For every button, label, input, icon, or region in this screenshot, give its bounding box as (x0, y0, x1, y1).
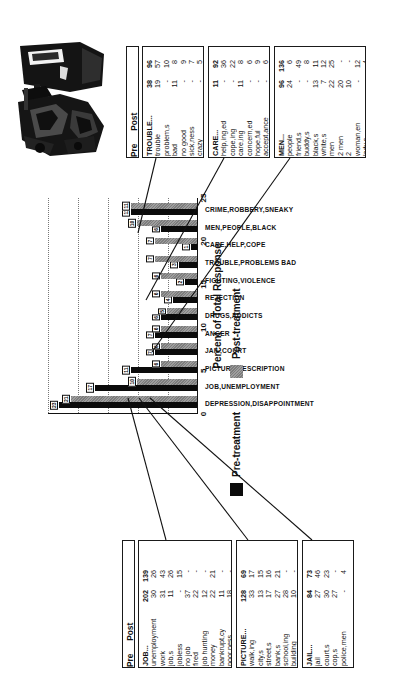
legend-label-post: Post-treatment (231, 288, 242, 359)
table-row: police,men-4 (340, 570, 348, 666)
cell-pre: 19 (154, 80, 162, 100)
row-label: trouble (154, 100, 162, 156)
table-row: unemployment3026 (150, 570, 158, 666)
bar-pre: 11 (131, 209, 197, 215)
row-label: fired (192, 610, 200, 666)
bar-pre: 6 (161, 314, 197, 320)
bar-group: 116 (48, 361, 197, 373)
bar-post: 7 (155, 238, 197, 244)
figure-page: Pre Post TROUBLE... 38 96 trouble1957 pr… (0, 0, 412, 680)
cell-pre: - (340, 590, 348, 610)
table-row: woman,en-12 (354, 60, 362, 156)
bar-post: 6 (161, 326, 197, 332)
table-row: buddy,s-8 (303, 60, 311, 156)
bar-value-label: 10 (128, 377, 136, 387)
bar-pre: 11 (131, 367, 197, 373)
table-row: JOB... 202 139 (142, 570, 150, 666)
row-label: walk,ing (248, 610, 256, 666)
table-row: jobless-15 (176, 570, 184, 666)
cell-post: - (337, 60, 345, 80)
bar-group: 46 (48, 291, 197, 303)
row-label: cop,s (331, 610, 339, 666)
table-trouble: TROUBLE... 38 96 trouble1957 problem,s-1… (142, 46, 204, 158)
cell-pre: 11 (171, 80, 179, 100)
legend-item-pre: Pre-treatment (230, 412, 243, 496)
cell-pre: 24 (286, 80, 294, 100)
header-post: Post (129, 113, 139, 131)
category-label: PICTURE DESCRIPTION (202, 361, 342, 375)
table-row: TROUBLE... 38 96 (146, 60, 154, 156)
table-row: JAIL... 84 73 (306, 570, 314, 666)
category-label: MEN,PEOPLE,BLACK (202, 220, 342, 234)
table-row: CARE... 11 92 (212, 60, 220, 156)
table-row: building10- (290, 570, 298, 666)
cell-pre: - (362, 80, 366, 100)
cell-post: 21 (274, 570, 282, 590)
row-label: jobless (176, 610, 184, 666)
row-label: woman,en (354, 100, 362, 156)
cell-post: 23 (323, 570, 331, 590)
row-label: job hunting (201, 610, 209, 666)
table-row: cope,ing-22 (229, 60, 237, 156)
table-row: bankrupt,cy11- (218, 570, 226, 666)
cell-pre: - (354, 80, 362, 100)
table-row: trouble1957 (154, 60, 162, 156)
bar-post: 11 (131, 203, 197, 209)
header-post: Post (125, 623, 135, 641)
row-label: bad (171, 100, 179, 156)
row-label: people (286, 100, 294, 156)
row-label: buddy,s (303, 100, 311, 156)
cell-pre: - (188, 80, 196, 100)
legend-item-post: Post-treatment (230, 288, 243, 378)
table-row: poor,ness18- (226, 570, 232, 666)
bar-value-label: 17 (86, 383, 94, 393)
table-job: JOB... 202 139 unemployment3026 work3143… (138, 540, 232, 668)
category-axis: DEPRESSION,DISAPPOINTMENTJOB,UNEMPLOYMEN… (202, 198, 342, 414)
table-jail: JAIL... 84 73 jail2746 court,s3023 cop,s… (302, 540, 354, 668)
bar-chart: 23211710116767665462637176101111 0510152… (44, 178, 276, 500)
bar-post: 21 (71, 396, 197, 402)
bar-group: 17 (48, 238, 197, 250)
cell-pre: - (262, 80, 270, 100)
header-pre: Pre (125, 653, 135, 667)
bar-pre: 1 (191, 244, 197, 250)
row-label: no job (184, 610, 192, 666)
row-label: concern,ed (246, 100, 254, 156)
row-label: lady,s (362, 100, 366, 156)
table-title: CARE... (212, 100, 220, 156)
row-label: building (290, 610, 298, 666)
cell-post: - (282, 570, 290, 590)
table-care: CARE... 11 92 help,ing,ed-36 cope,ing-22… (208, 46, 270, 158)
bar-value-label: 3 (170, 261, 178, 268)
cell-post: 25 (328, 60, 336, 80)
row-label: city,s (257, 610, 265, 666)
bar-value-label: 6 (152, 290, 160, 297)
cell-post: 5 (196, 60, 204, 80)
bar-value-label: 11 (122, 365, 130, 374)
category-label: DRUGS,ADDICTS (202, 308, 342, 322)
table-row: sick,ness-7 (188, 60, 196, 156)
row-label: care,ing (237, 100, 245, 156)
row-label: sick,ness (188, 100, 196, 156)
category-label: JAIL,COURT (202, 343, 342, 357)
bar-value-label: 2 (176, 279, 184, 286)
bar-value-label: 4 (164, 296, 172, 303)
cell-post: - (192, 570, 200, 590)
bar-post: 6 (161, 361, 197, 367)
tv-monitor-photograph (16, 40, 114, 158)
table-title: JOB... (142, 610, 150, 666)
table-title: MEN... (278, 100, 286, 156)
row-label: jail (314, 610, 322, 666)
table-row: help,ing,ed-36 (220, 60, 228, 156)
table-row: MEN... 96 136 (278, 60, 286, 156)
bar-value-label: 21 (62, 394, 70, 404)
bar-value-label: 1 (182, 244, 190, 251)
bar-value-label: 6 (152, 343, 160, 350)
bar-group: 26 (48, 273, 197, 285)
table-row: fired22- (192, 570, 200, 666)
chart-legend: Pre-treatment Post-treatment (230, 196, 243, 496)
category-label: JOB,UNEMPLOYMENT (202, 379, 342, 393)
row-label: street,s (265, 610, 273, 666)
table-men: MEN... 96 136 people246 friend,s-49 budd… (274, 46, 366, 158)
row-label: bankrupt,cy (218, 610, 226, 666)
